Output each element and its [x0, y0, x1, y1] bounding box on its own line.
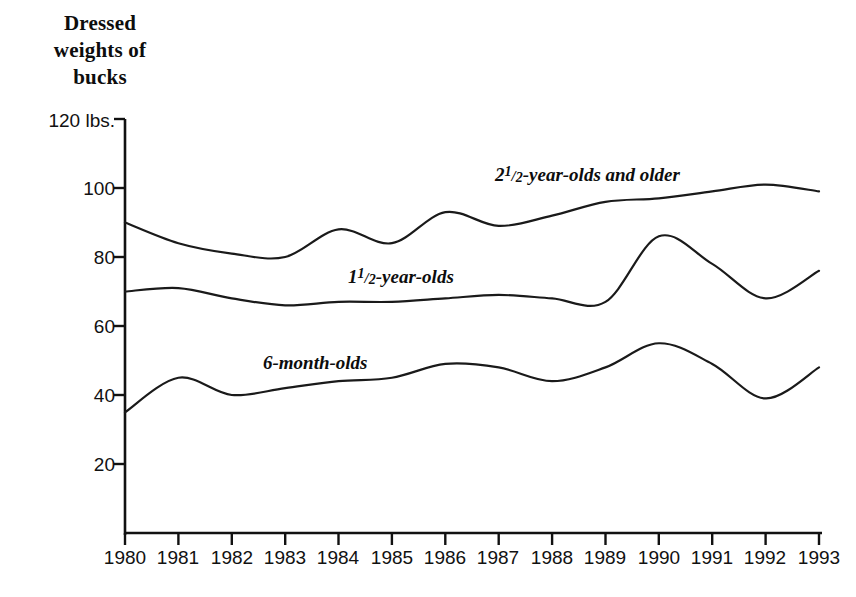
plot-area — [0, 0, 856, 597]
chart-svg — [0, 0, 856, 597]
series-line-0 — [125, 185, 819, 259]
series-line-2 — [125, 343, 819, 412]
x-axis-ticks — [125, 533, 819, 545]
series-line-1 — [125, 235, 819, 306]
series-lines — [125, 185, 819, 413]
y-axis-ticks — [114, 119, 125, 464]
chart-root: Dressed weights of bucks 120 lbs. 100 80… — [0, 0, 856, 597]
axes — [114, 119, 822, 545]
